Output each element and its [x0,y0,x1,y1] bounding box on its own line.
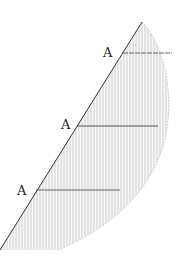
label-a-bottom: A [17,184,26,197]
label-a-middle: A [61,118,70,131]
diagram-canvas: A A A [0,0,187,260]
hatched-region-figure [0,0,187,260]
hatched-area [0,22,169,250]
label-a-top: A [103,46,112,59]
